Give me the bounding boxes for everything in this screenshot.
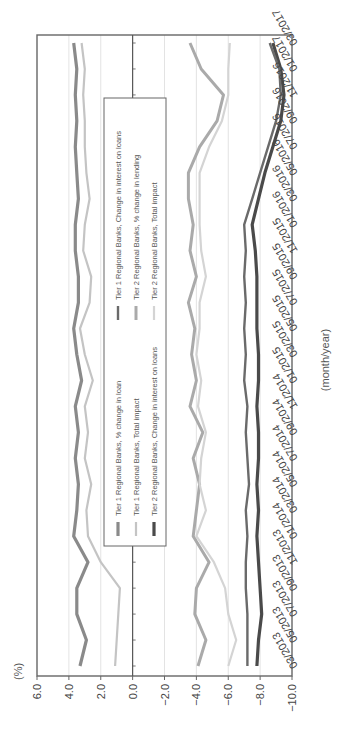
legend-label: Tier 1 Regional Banks, % change in loan xyxy=(114,381,123,516)
legend: Tier 1 Regional Banks, % change in loanT… xyxy=(104,98,166,546)
y-tick-label: 4.0 xyxy=(63,684,75,699)
y-axis-ticks: 6.04.02.00.0−2.0−4.0−6.0−8.0−10.0 xyxy=(31,676,298,712)
y-tick-label: −4.0 xyxy=(190,684,202,706)
legend-label: Tier 2 Regional Banks, Total impact xyxy=(150,182,159,300)
x-axis-ticks: 03/201305/201307/201309/201311/201301/20… xyxy=(269,8,299,671)
legend-label: Tier 2 Regional Banks, Change in interes… xyxy=(150,347,159,516)
y-axis-title: (%) xyxy=(12,663,24,680)
legend-label: Tier 2 Regional Banks, % change in lendi… xyxy=(132,155,141,300)
y-tick-label: −8.0 xyxy=(254,684,266,706)
y-tick-label: 0.0 xyxy=(127,684,139,699)
y-tick-label: −6.0 xyxy=(222,684,234,706)
y-tick-label: 2.0 xyxy=(95,684,107,699)
y-tick-label: −2.0 xyxy=(159,684,171,706)
y-tick-label: 6.0 xyxy=(31,684,43,699)
chart: 6.04.02.00.0−2.0−4.0−6.0−8.0−10.0 03/201… xyxy=(0,0,344,750)
y-tick-label: −10.0 xyxy=(286,684,298,712)
x-axis-title: (month/year) xyxy=(319,329,331,391)
legend-label: Tier 1 Regional Banks, Total impact xyxy=(132,398,141,516)
legend-label: Tier 1 Regional Banks, Change in interes… xyxy=(114,131,123,300)
